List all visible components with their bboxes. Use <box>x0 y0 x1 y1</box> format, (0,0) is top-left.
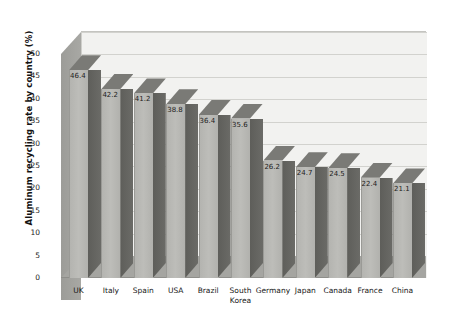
bar-usa: 38.8 <box>166 89 198 278</box>
bar-top-face <box>199 100 231 115</box>
y-axis-tick-30: 30 <box>22 140 40 148</box>
bar-top-face <box>69 55 101 70</box>
bar-top-face <box>393 168 425 183</box>
bar-italy: 42.2 <box>101 74 133 278</box>
bar-value-label: 21.1 <box>394 185 410 193</box>
y-axis-tick-0: 0 <box>22 274 40 282</box>
bar-value-label: 38.8 <box>167 106 183 114</box>
bar-front-face <box>134 93 154 278</box>
bar-spain: 41.2 <box>134 78 166 278</box>
x-axis-label-line: China <box>377 286 429 296</box>
bar-top-face <box>328 153 360 168</box>
bar-value-label: 26.2 <box>264 163 280 171</box>
bar-side-face <box>412 183 425 278</box>
y-axis-tick-15: 15 <box>22 207 40 215</box>
bar-south-korea: 35.6 <box>231 104 263 278</box>
bar-brazil: 36.4 <box>199 100 231 278</box>
x-axis-label-line: Korea <box>215 296 267 306</box>
bar-front-face <box>393 183 413 278</box>
chart-container: Aluminum recycling rate by country (%) 0… <box>0 0 449 319</box>
bar-top-face <box>231 104 263 119</box>
bar-side-face <box>380 178 393 278</box>
y-axis-tick-5: 5 <box>22 252 40 260</box>
bar-top-face <box>361 163 393 178</box>
bar-china: 21.1 <box>393 168 425 278</box>
bar-side-face <box>250 119 263 278</box>
bar-side-face <box>120 89 133 278</box>
bar-side-face <box>185 104 198 278</box>
bar-side-face <box>218 115 231 278</box>
gridline-45 <box>82 54 427 55</box>
bar-value-label: 46.4 <box>70 72 86 80</box>
bar-value-label: 22.4 <box>362 180 378 188</box>
bar-uk: 46.4 <box>69 55 101 278</box>
y-axis-tick-50: 50 <box>22 50 40 58</box>
y-axis-tick-25: 25 <box>22 162 40 170</box>
y-axis-tick-10: 10 <box>22 229 40 237</box>
y-axis-tick-labels: 05101520253035404550 <box>18 0 40 319</box>
bar-top-face <box>263 146 295 161</box>
gridline-50 <box>82 32 427 33</box>
x-axis-label-china: China <box>377 286 429 296</box>
bar-value-label: 41.2 <box>135 95 151 103</box>
bar-front-face <box>263 161 283 278</box>
bar-top-face <box>296 152 328 167</box>
bar-france: 22.4 <box>361 163 393 278</box>
bar-side-face <box>282 161 295 278</box>
bar-value-label: 24.7 <box>297 169 313 177</box>
bar-side-face <box>88 70 101 278</box>
bar-front-face <box>361 178 381 278</box>
bar-front-face <box>296 167 316 278</box>
bar-front-face <box>101 89 121 278</box>
bar-value-label: 36.4 <box>200 117 216 125</box>
bar-side-face <box>347 168 360 278</box>
bar-top-face <box>134 78 166 93</box>
bar-germany: 26.2 <box>263 146 295 278</box>
y-axis-tick-35: 35 <box>22 117 40 125</box>
bar-top-face <box>101 74 133 89</box>
y-axis-tick-45: 45 <box>22 72 40 80</box>
y-axis-tick-20: 20 <box>22 184 40 192</box>
bar-canada: 24.5 <box>328 153 360 278</box>
bar-front-face <box>328 168 348 278</box>
bar-side-face <box>315 167 328 278</box>
bar-front-face <box>69 70 89 278</box>
bar-front-face <box>231 119 251 278</box>
bar-side-face <box>153 93 166 278</box>
bar-value-label: 42.2 <box>102 91 118 99</box>
bar-top-face <box>166 89 198 104</box>
bar-japan: 24.7 <box>296 152 328 278</box>
bar-front-face <box>166 104 186 278</box>
y-axis-tick-40: 40 <box>22 95 40 103</box>
bar-front-face <box>199 115 219 278</box>
bar-value-label: 24.5 <box>329 170 345 178</box>
bar-value-label: 35.6 <box>232 121 248 129</box>
plot-wall-top-edge <box>81 31 426 32</box>
